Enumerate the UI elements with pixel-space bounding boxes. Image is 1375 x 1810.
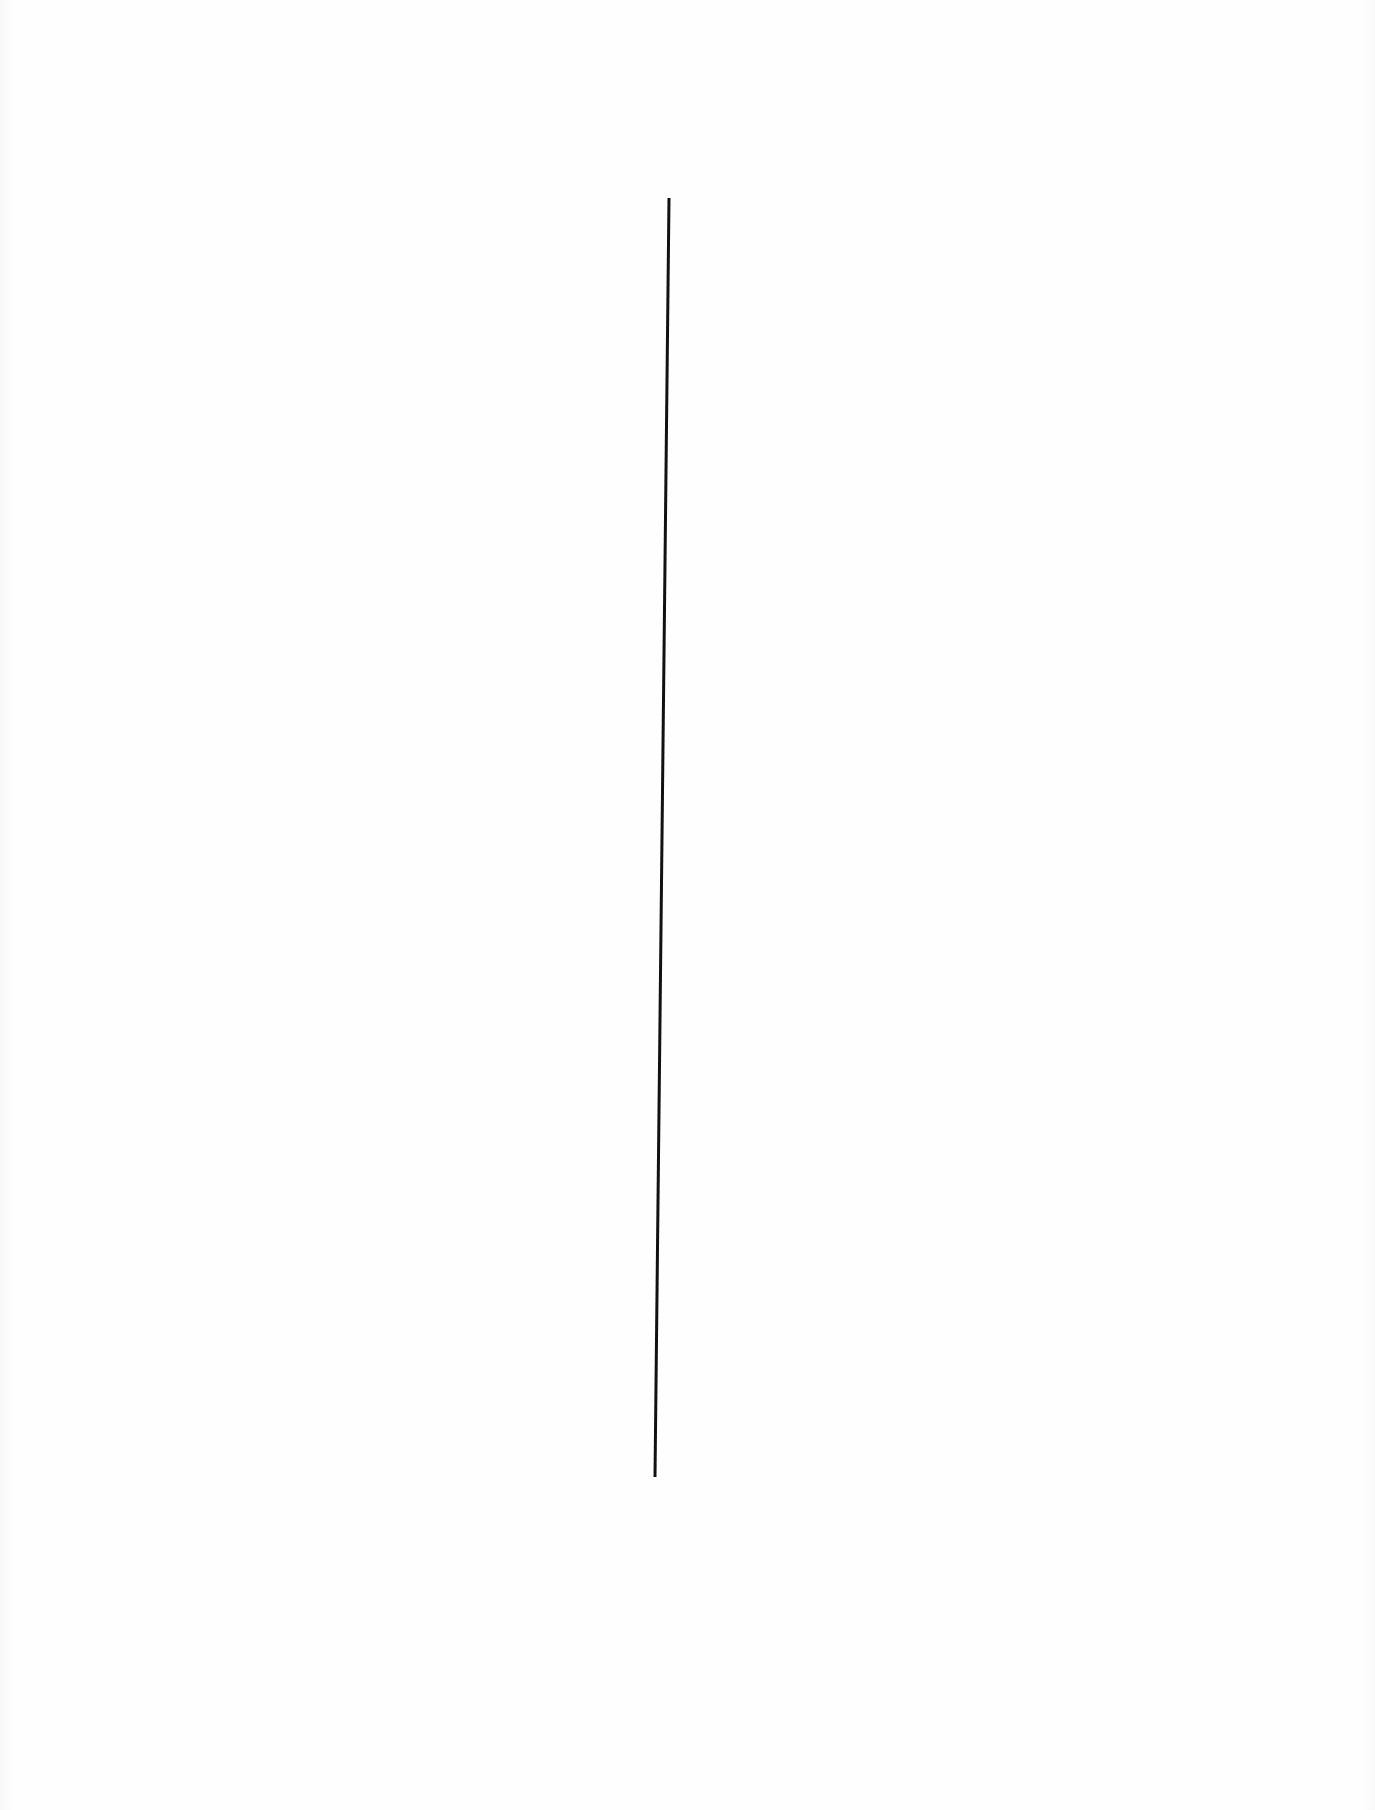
- line-canvas: [0, 0, 1375, 1810]
- vertical-rule-line: [655, 198, 669, 1477]
- scanned-page: [0, 0, 1375, 1810]
